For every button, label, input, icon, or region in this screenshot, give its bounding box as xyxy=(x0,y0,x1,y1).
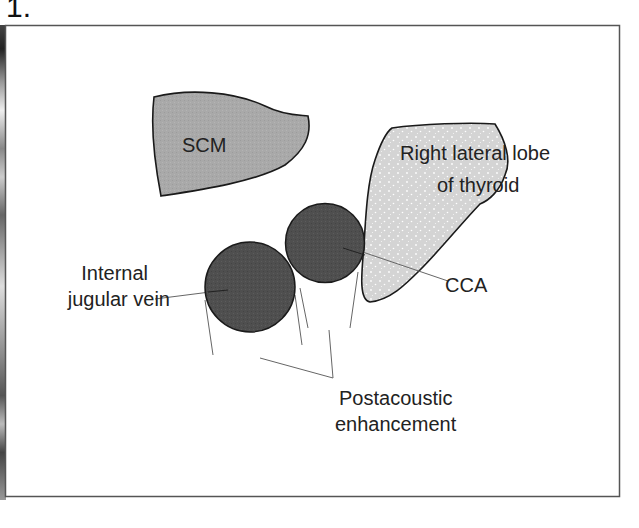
scm-muscle-shape xyxy=(153,92,309,196)
postacoustic-label-line1: Postacoustic xyxy=(339,387,452,409)
common-carotid-artery-circle xyxy=(286,204,365,283)
thyroid-label-line1: Right lateral lobe xyxy=(400,142,550,164)
internal-jugular-vein-circle xyxy=(205,242,295,332)
cca-label: CCA xyxy=(445,274,488,296)
thyroid-label-line2: of thyroid xyxy=(437,174,519,196)
ijv-label-line1: Internal xyxy=(81,262,148,284)
ijv-label-line2: jugular vein xyxy=(67,288,170,310)
scm-label: SCM xyxy=(182,134,226,156)
anatomy-diagram: SCM Right lateral lobe of thyroid Intern… xyxy=(0,0,639,528)
postacoustic-label-line2: enhancement xyxy=(335,413,457,435)
